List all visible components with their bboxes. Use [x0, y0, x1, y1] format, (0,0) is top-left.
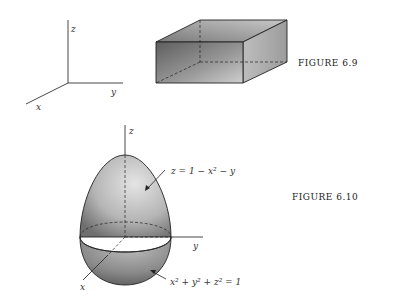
x-axis: [26, 83, 68, 104]
upper-surface-equation: z = 1 − x² − y: [170, 166, 236, 176]
fig69-y-label: y: [110, 87, 117, 97]
fig610-y-label: y: [192, 241, 199, 251]
rectangular-box: [156, 20, 287, 83]
figure-6-10-caption: FIGURE 6.10: [292, 192, 358, 202]
figures-canvas: z y x FIGURE 6.9: [0, 0, 393, 304]
fig610-z-label: z: [128, 126, 134, 136]
fig610-x-label: x: [80, 282, 85, 292]
figure-6-9-caption: FIGURE 6.9: [298, 58, 358, 68]
fig69-z-label: z: [70, 24, 76, 34]
fig69-solid: [80, 125, 203, 285]
lower-surface-equation: x² + y² + z² = 1: [170, 277, 241, 287]
fig69-x-label: x: [36, 102, 41, 112]
